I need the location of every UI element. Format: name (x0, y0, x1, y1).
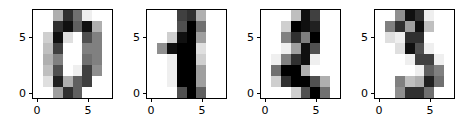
pixel (375, 65, 385, 76)
pixel (177, 32, 187, 43)
pixel (415, 87, 425, 98)
pixel (330, 87, 340, 98)
pixel (206, 87, 216, 98)
pixel (320, 32, 330, 43)
pixel (281, 32, 291, 43)
axes-frame-2 (260, 9, 341, 99)
pixel (216, 32, 226, 43)
x-tick-label: 5 (306, 104, 326, 117)
pixel (281, 10, 291, 21)
pixel (395, 65, 405, 76)
pixel (405, 43, 415, 54)
pixel (206, 21, 216, 32)
pixel (147, 10, 157, 21)
pixel (385, 43, 395, 54)
pixel (53, 76, 63, 87)
pixel (73, 76, 83, 87)
pixel (291, 65, 301, 76)
pixel (320, 87, 330, 98)
pixel (415, 54, 425, 65)
pixel (73, 65, 83, 76)
pixel (271, 87, 281, 98)
pixel (63, 10, 73, 21)
pixel (330, 65, 340, 76)
pixel (92, 65, 102, 76)
pixel (301, 65, 311, 76)
pixel (310, 87, 320, 98)
pixel (196, 54, 206, 65)
x-tick-mark (430, 99, 431, 102)
pixel (261, 76, 271, 87)
pixel (271, 21, 281, 32)
pixel (444, 21, 454, 32)
pixel (216, 10, 226, 21)
pixel (434, 65, 444, 76)
pixel (291, 76, 301, 87)
pixel (63, 21, 73, 32)
y-tick-mark (257, 93, 260, 94)
pixel (53, 87, 63, 98)
pixel (157, 32, 167, 43)
pixel (320, 54, 330, 65)
pixel (177, 54, 187, 65)
pixel (415, 21, 425, 32)
pixel (281, 21, 291, 32)
pixel (167, 10, 177, 21)
pixel (147, 76, 157, 87)
pixel (187, 54, 197, 65)
y-tick-label: 5 (12, 31, 26, 44)
pixel (167, 87, 177, 98)
pixel (102, 76, 112, 87)
pixel (33, 65, 43, 76)
x-tick-label: 0 (369, 104, 389, 117)
y-tick-mark (371, 93, 374, 94)
pixel (82, 76, 92, 87)
pixel (196, 87, 206, 98)
pixel (310, 54, 320, 65)
pixel (206, 76, 216, 87)
pixel (147, 43, 157, 54)
pixel (102, 54, 112, 65)
pixel (73, 87, 83, 98)
pixel (271, 10, 281, 21)
x-tick-mark (202, 99, 203, 102)
pixel (43, 54, 53, 65)
pixel (102, 43, 112, 54)
pixel (444, 65, 454, 76)
pixel (395, 87, 405, 98)
pixel (82, 10, 92, 21)
x-tick-label: 5 (78, 104, 98, 117)
pixel (395, 43, 405, 54)
x-tick-label: 0 (141, 104, 161, 117)
pixel (375, 43, 385, 54)
pixel (395, 21, 405, 32)
pixel (405, 65, 415, 76)
pixel (301, 10, 311, 21)
y-tick-label: 0 (12, 87, 26, 100)
axes-frame-0 (32, 9, 113, 99)
pixel (405, 54, 415, 65)
pixel (434, 32, 444, 43)
pixel (147, 54, 157, 65)
pixel (310, 32, 320, 43)
pixel (102, 10, 112, 21)
pixel (375, 21, 385, 32)
pixel (330, 43, 340, 54)
pixel (63, 54, 73, 65)
pixel (261, 54, 271, 65)
pixel (187, 21, 197, 32)
pixel (405, 32, 415, 43)
pixel (424, 43, 434, 54)
pixel (261, 43, 271, 54)
pixel (53, 54, 63, 65)
pixel (310, 10, 320, 21)
y-tick-label: 0 (126, 87, 140, 100)
x-tick-label: 5 (192, 104, 212, 117)
pixel (330, 21, 340, 32)
pixel (320, 21, 330, 32)
x-tick-mark (379, 99, 380, 102)
pixel (187, 43, 197, 54)
y-tick-mark (143, 93, 146, 94)
pixel (157, 21, 167, 32)
pixel (63, 32, 73, 43)
